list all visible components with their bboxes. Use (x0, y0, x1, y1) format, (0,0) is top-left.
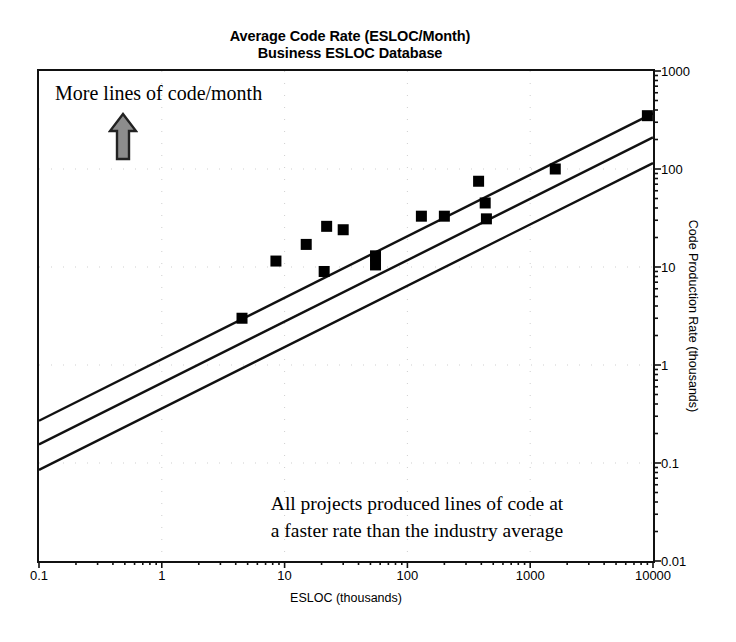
up-arrow-icon (108, 112, 138, 162)
chart-page: Average Code Rate (ESLOC/Month) Business… (0, 0, 736, 642)
x-tick-label: 1 (158, 568, 165, 583)
annotation-faster-rate: All projects produced lines of code at a… (207, 490, 627, 544)
x-axis-title: ESLOC (thousands) (37, 591, 655, 605)
y-tick-label: 100 (661, 162, 683, 177)
x-tick-label: 1000 (516, 568, 545, 583)
y-tick-label: 10 (661, 260, 675, 275)
x-tick-label: 10 (277, 568, 291, 583)
annotation-more-lines: More lines of code/month (55, 82, 262, 105)
x-tick-label: 10000 (635, 568, 671, 583)
annotation-faster-rate-line-2: a faster rate than the industry average (207, 517, 627, 544)
y-tick-label: 0.01 (661, 554, 686, 569)
x-tick-label: 100 (397, 568, 419, 583)
annotation-faster-rate-line-1: All projects produced lines of code at (207, 490, 627, 517)
x-tick-label: 0.1 (30, 568, 48, 583)
y-tick-label: 1000 (661, 64, 690, 79)
y-tick-label: 1 (661, 358, 668, 373)
y-axis-title: Code Production Rate (thousands) (686, 220, 700, 412)
y-tick-label: 0.1 (661, 456, 679, 471)
